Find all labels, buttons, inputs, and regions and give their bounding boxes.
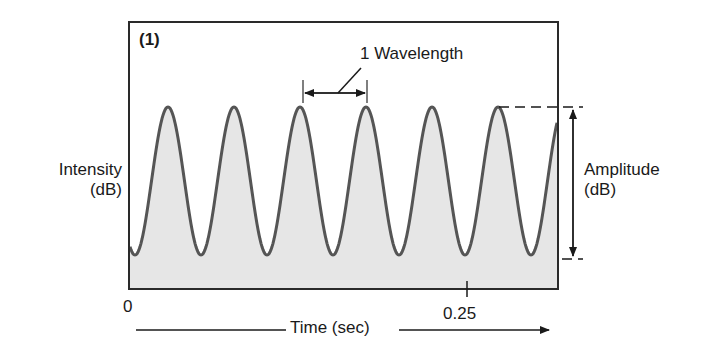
amplitude-label-line2: (dB) xyxy=(584,180,660,200)
y-axis-label-line1: Intensity xyxy=(59,160,122,180)
y-axis-label-line2: (dB) xyxy=(59,180,122,200)
x-axis-label: Time (sec) xyxy=(290,318,370,338)
wavelength-label: 1 Wavelength xyxy=(360,44,463,64)
x-tick-label-025: 0.25 xyxy=(443,304,476,324)
y-axis-label: Intensity (dB) xyxy=(59,160,122,200)
amplitude-label-line1: Amplitude xyxy=(584,160,660,180)
panel-label: (1) xyxy=(139,30,160,50)
amplitude-label: Amplitude (dB) xyxy=(584,160,660,200)
x-tick-label-0: 0 xyxy=(123,297,132,317)
